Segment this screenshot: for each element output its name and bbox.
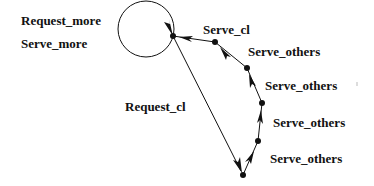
edge-serve-others-2	[247, 68, 262, 103]
edge-serve-others-3	[258, 103, 262, 141]
state-node	[240, 172, 246, 178]
label-serve-others-2: Serve_others	[265, 79, 337, 92]
arrowhead-icon	[245, 151, 254, 164]
state-node	[212, 39, 218, 45]
label-serve-cl: Serve_cl	[203, 23, 250, 36]
label-request-cl: Request_cl	[125, 100, 186, 113]
edge-serve-others-1	[215, 42, 247, 68]
state-node	[259, 100, 265, 106]
label-serve-others-3: Serve_others	[273, 116, 345, 129]
label-request-more: Request_more	[21, 14, 101, 27]
label-serve-others-4: Serve_others	[270, 152, 342, 165]
self-loop	[118, 1, 174, 57]
label-serve-more: Serve_more	[21, 37, 87, 50]
state-node	[255, 138, 261, 144]
label-serve-others-1: Serve_others	[248, 45, 320, 58]
state-node	[170, 33, 176, 39]
state-node	[244, 65, 250, 71]
arrowhead-icon	[233, 157, 242, 173]
